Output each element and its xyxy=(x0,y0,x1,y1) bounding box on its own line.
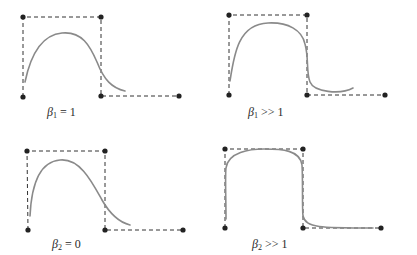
panel-beta2-equals-0 xyxy=(24,148,185,232)
panel-label: β2 = 0 xyxy=(52,238,81,252)
panel-beta1-much-greater-1 xyxy=(226,12,387,97)
control-point xyxy=(226,92,231,97)
control-point xyxy=(176,93,181,98)
relation-text: >> 1 xyxy=(262,237,288,251)
control-point xyxy=(382,92,387,97)
control-point xyxy=(98,93,103,98)
beta-spline-curve xyxy=(30,160,130,225)
panel-beta2-much-greater-1 xyxy=(222,146,383,230)
control-point xyxy=(98,14,103,19)
control-point xyxy=(102,227,107,232)
control-point xyxy=(222,225,227,230)
control-point xyxy=(378,225,383,230)
relation-text: >> 1 xyxy=(258,105,284,119)
panel-label: β1 >> 1 xyxy=(248,106,284,120)
control-point xyxy=(180,227,185,232)
control-point xyxy=(304,92,309,97)
panel-label: β2 >> 1 xyxy=(252,238,288,252)
panel-label: β1 = 1 xyxy=(47,106,76,120)
control-point xyxy=(304,12,309,17)
control-point xyxy=(20,94,25,99)
control-point xyxy=(226,12,231,17)
beta-spline-diagram xyxy=(0,0,417,255)
control-point xyxy=(25,227,30,232)
relation-text: = 1 xyxy=(57,105,76,119)
beta-spline-curve xyxy=(226,149,373,228)
control-point xyxy=(300,225,305,230)
control-point xyxy=(300,146,305,151)
relation-text: = 0 xyxy=(62,237,81,251)
control-point xyxy=(24,148,29,153)
control-polygon xyxy=(23,17,179,97)
control-point xyxy=(222,146,227,151)
control-point xyxy=(102,148,107,153)
control-point xyxy=(20,14,25,19)
panel-beta1-equals-1 xyxy=(20,14,181,99)
beta-spline-curve xyxy=(25,33,125,91)
beta-spline-curve xyxy=(230,23,353,92)
